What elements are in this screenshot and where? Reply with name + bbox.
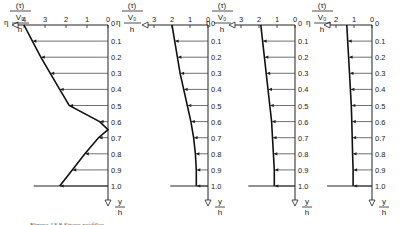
panel-3: 321000.10.20.30.40.50.60.70.80.91.0(τ)V₀…	[206, 1, 312, 217]
y-tick-label: 1.0	[375, 182, 385, 191]
y-tick-label: 0.5	[211, 102, 221, 111]
y-tick-label: 0.7	[211, 134, 221, 143]
y-tick-label: 0	[375, 19, 379, 28]
y-tick-label: 1.0	[211, 182, 221, 191]
y-tick-label: 0.3	[298, 69, 308, 78]
y-tick-label: 0.4	[375, 85, 385, 94]
x-tick-label: 2	[334, 15, 338, 24]
x-axis-label-middle: V₀	[318, 13, 327, 22]
y-axis-label-numerator: y	[118, 197, 122, 206]
y-tick-label: 0.9	[211, 166, 221, 175]
x-tick-label: 2	[170, 15, 174, 24]
y-tick-label: 0.5	[111, 102, 121, 111]
y-tick-label: 0.8	[298, 150, 308, 159]
y-tick-label: 0.7	[111, 134, 121, 143]
panel-4: 21000.10.20.30.40.50.60.70.80.91.0(τ)V₀η…	[306, 1, 389, 217]
x-axis-label-denominator: h	[130, 25, 134, 34]
y-tick-label: 0.9	[111, 166, 121, 175]
y-tick-label: 0.5	[375, 102, 385, 111]
x-axis-arrow-icon	[142, 22, 148, 28]
y-tick-label: 0.4	[111, 85, 121, 94]
y-tick-label: 0.9	[375, 166, 385, 175]
x-axis-label-middle: V₀	[218, 13, 227, 22]
y-tick-label: 0.7	[375, 134, 385, 143]
y-tick-label: 0.1	[375, 37, 385, 46]
y-tick-label: 0.7	[298, 134, 308, 143]
y-tick-label: 1.0	[111, 182, 121, 191]
y-tick-label: 0.9	[298, 166, 308, 175]
y-axis-label-numerator: y	[218, 197, 222, 206]
x-axis-label-prefix: η	[306, 18, 310, 27]
y-axis-label-denominator: h	[382, 208, 386, 217]
y-tick-label: 0	[211, 19, 215, 28]
x-axis-label-numerator: (τ)	[318, 1, 327, 10]
x-axis-label-middle: V₀	[16, 13, 25, 22]
y-tick-label: 0.6	[375, 118, 385, 127]
x-tick-label: 3	[43, 15, 47, 24]
figure-caption: Figure 13.8 Stress profiles	[30, 221, 104, 225]
y-tick-label: 0.8	[111, 150, 121, 159]
x-tick-label: 1	[275, 15, 279, 24]
y-tick-label: 0.8	[211, 150, 221, 159]
y-axis-label-denominator: h	[118, 208, 122, 217]
x-axis-label-denominator: h	[18, 25, 22, 34]
y-tick-label: 1.0	[298, 182, 308, 191]
x-tick-label: 2	[257, 15, 261, 24]
x-tick-label: 2	[64, 15, 68, 24]
y-tick-label: 0.4	[211, 85, 221, 94]
panel-1: 4321000.10.20.30.40.50.60.70.80.91.0(τ)V…	[4, 1, 125, 217]
y-tick-label: 0.2	[211, 53, 221, 62]
x-axis-label-prefix: η	[4, 18, 8, 27]
y-axis-label-numerator: y	[305, 197, 309, 206]
y-axis-arrow-icon	[105, 200, 111, 206]
y-axis-arrow-icon	[205, 200, 211, 206]
y-tick-label: 0.2	[375, 53, 385, 62]
x-axis-label-denominator: h	[220, 25, 224, 34]
x-tick-label: 0	[370, 15, 374, 24]
y-tick-label: 0.3	[211, 69, 221, 78]
y-tick-label: 0.3	[375, 69, 385, 78]
y-tick-label: 0.3	[111, 69, 121, 78]
x-tick-label: 0	[293, 15, 297, 24]
y-tick-label: 0.2	[298, 53, 308, 62]
x-tick-label: 3	[239, 15, 243, 24]
y-tick-label: 0.4	[298, 85, 308, 94]
y-tick-label: 0.1	[111, 37, 121, 46]
y-tick-label: 0	[298, 19, 302, 28]
x-tick-label: 1	[188, 15, 192, 24]
x-axis-label-prefix: η	[116, 18, 120, 27]
x-axis-label-denominator: h	[320, 25, 324, 34]
y-tick-label: 0.8	[375, 150, 385, 159]
x-axis-label-numerator: (τ)	[16, 1, 25, 10]
x-axis-label-middle: V₀	[128, 13, 137, 22]
y-axis-label-denominator: h	[218, 208, 222, 217]
x-axis-label-numerator: (τ)	[218, 1, 227, 10]
y-tick-label: 0.1	[211, 37, 221, 46]
y-tick-label: 0.2	[111, 53, 121, 62]
x-tick-label: 3	[152, 15, 156, 24]
y-tick-label: 0.6	[111, 118, 121, 127]
y-tick-label: 0.1	[298, 37, 308, 46]
x-tick-label: 0	[106, 15, 110, 24]
y-axis-arrow-icon	[292, 200, 298, 206]
x-axis-label-numerator: (τ)	[128, 1, 137, 10]
y-axis-label-denominator: h	[305, 208, 309, 217]
stress-profile-figure: 4321000.10.20.30.40.50.60.70.80.91.0(τ)V…	[0, 0, 406, 225]
panel-2: 321000.10.20.30.40.50.60.70.80.91.0(τ)V₀…	[116, 1, 225, 217]
y-tick-label: 0.6	[211, 118, 221, 127]
y-tick-label: 0	[111, 19, 115, 28]
x-tick-label: 1	[352, 15, 356, 24]
y-tick-label: 0.6	[298, 118, 308, 127]
y-axis-label-numerator: y	[382, 197, 386, 206]
x-axis-label-prefix: η	[206, 18, 210, 27]
y-tick-label: 0.5	[298, 102, 308, 111]
x-tick-label: 1	[85, 15, 89, 24]
y-axis-arrow-icon	[369, 200, 375, 206]
